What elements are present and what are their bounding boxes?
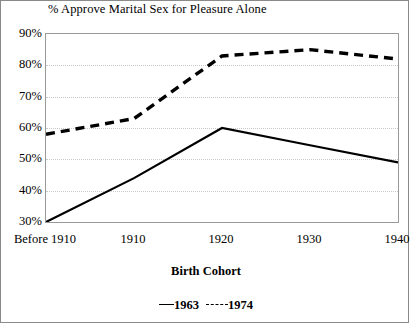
x-tick-label: 1930 (297, 232, 322, 247)
series-lines (46, 34, 398, 222)
y-tick-label: 80% (19, 57, 42, 72)
chart-title: % Approve Marital Sex for Pleasure Alone (48, 2, 267, 17)
x-tick-label: 1910 (121, 232, 146, 247)
chart-frame: % Approve Marital Sex for Pleasure Alone… (0, 0, 409, 323)
x-tick-label: 1940 (385, 232, 410, 247)
x-tick-label: 1920 (209, 232, 234, 247)
y-tick-label: 90% (19, 26, 42, 41)
chart-legend: 19631974 (1, 297, 410, 313)
y-tick-label: 60% (19, 120, 42, 135)
legend-dashed-line-icon (206, 304, 228, 305)
y-tick-label: 70% (19, 88, 42, 103)
series-line-1974 (46, 50, 398, 135)
x-axis-title: Birth Cohort (1, 264, 410, 279)
y-tick-label: 40% (19, 182, 42, 197)
legend-label-1963: 1963 (174, 298, 199, 312)
series-line-1963 (46, 128, 398, 222)
y-tick-label: 30% (19, 214, 42, 229)
plot-area (45, 33, 399, 223)
x-tick-label: Before 1910 (14, 232, 76, 247)
legend-label-1974: 1974 (228, 298, 253, 312)
y-tick-label: 50% (19, 151, 42, 166)
legend-solid-line-icon (159, 304, 174, 305)
